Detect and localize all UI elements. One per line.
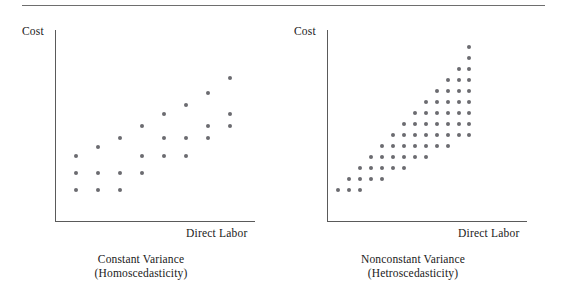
scatter-point [424, 111, 428, 115]
caption-line-2: (Homoscedasticity) [0, 266, 282, 280]
scatter-point [118, 171, 122, 175]
scatter-point [74, 171, 78, 175]
scatter-point [402, 144, 406, 148]
panel-homoscedasticity: Cost Direct Labor Constant Variance (Hom… [0, 0, 282, 299]
scatter-point [467, 56, 471, 60]
scatter-point [74, 154, 78, 158]
scatter-point [467, 111, 471, 115]
scatter-point [74, 188, 78, 192]
scatter-point [467, 122, 471, 126]
scatter-point [435, 89, 439, 93]
scatter-point [424, 100, 428, 104]
scatter-point [369, 155, 373, 159]
scatter-point [162, 136, 166, 140]
caption-line-2: (Hetroscedasticity) [272, 266, 554, 280]
scatter-point [413, 111, 417, 115]
caption-line-1: Nonconstant Variance [272, 252, 554, 266]
scatter-point [467, 100, 471, 104]
scatter-point [391, 133, 395, 137]
scatter-point [380, 144, 384, 148]
scatter-point [446, 100, 450, 104]
scatter-point [347, 188, 351, 192]
scatter-point [358, 177, 362, 181]
scatter-point [435, 122, 439, 126]
scatter-point [446, 133, 450, 137]
scatter-point [457, 89, 461, 93]
scatter-point [347, 177, 351, 181]
scatter-point [391, 155, 395, 159]
scatter-point [369, 177, 373, 181]
scatter-point [391, 144, 395, 148]
scatter-point [228, 124, 232, 128]
scatter-point [184, 154, 188, 158]
scatter-points-heteroscedasticity [327, 30, 527, 222]
scatter-points-homoscedasticity [55, 30, 255, 222]
scatter-point [96, 171, 100, 175]
scatter-point [446, 89, 450, 93]
scatter-point [206, 124, 210, 128]
scatter-point [380, 166, 384, 170]
scatter-point [402, 166, 406, 170]
x-axis-label: Direct Labor [458, 227, 519, 239]
scatter-point [228, 112, 232, 116]
scatter-point [457, 133, 461, 137]
scatter-point [457, 67, 461, 71]
scatter-point [96, 188, 100, 192]
scatter-point [402, 122, 406, 126]
scatter-point [446, 144, 450, 148]
scatter-point [467, 133, 471, 137]
y-axis-label: Cost [22, 25, 44, 37]
scatter-point [435, 133, 439, 137]
scatter-point [457, 78, 461, 82]
scatter-point [457, 100, 461, 104]
scatter-point [228, 76, 232, 80]
caption-heteroscedasticity: Nonconstant Variance (Hetroscedasticity) [272, 252, 554, 280]
scatter-point [446, 111, 450, 115]
scatter-point [424, 155, 428, 159]
scatter-point [435, 111, 439, 115]
scatter-point [184, 103, 188, 107]
figure-homoscedasticity-heteroscedasticity: Cost Direct Labor Constant Variance (Hom… [0, 0, 563, 299]
scatter-point [140, 124, 144, 128]
scatter-point [467, 67, 471, 71]
scatter-point [467, 45, 471, 49]
caption-homoscedasticity: Constant Variance (Homoscedasticity) [0, 252, 282, 280]
scatter-point [369, 166, 373, 170]
scatter-point [424, 144, 428, 148]
scatter-point [380, 177, 384, 181]
scatter-point [424, 122, 428, 126]
panel-heteroscedasticity: Cost Direct Labor Nonconstant Variance (… [272, 0, 554, 299]
scatter-point [457, 122, 461, 126]
scatter-point [467, 89, 471, 93]
scatter-point [413, 144, 417, 148]
scatter-point [118, 188, 122, 192]
scatter-point [413, 122, 417, 126]
caption-line-1: Constant Variance [0, 252, 282, 266]
scatter-point [140, 171, 144, 175]
scatter-point [457, 111, 461, 115]
scatter-point [446, 78, 450, 82]
scatter-point [140, 154, 144, 158]
scatter-point [467, 78, 471, 82]
scatter-point [184, 136, 188, 140]
scatter-point [380, 155, 384, 159]
scatter-point [435, 100, 439, 104]
scatter-point [336, 188, 340, 192]
scatter-point [413, 155, 417, 159]
scatter-point [358, 188, 362, 192]
x-axis-label: Direct Labor [186, 227, 247, 239]
y-axis-label: Cost [294, 25, 316, 37]
scatter-point [424, 133, 428, 137]
scatter-point [118, 136, 122, 140]
scatter-point [358, 166, 362, 170]
scatter-point [402, 133, 406, 137]
scatter-point [96, 145, 100, 149]
scatter-point [162, 154, 166, 158]
scatter-point [206, 91, 210, 95]
scatter-point [446, 122, 450, 126]
plot-area-right [327, 30, 527, 222]
scatter-point [206, 136, 210, 140]
scatter-point [435, 144, 439, 148]
plot-area-left [55, 30, 255, 222]
scatter-point [162, 112, 166, 116]
